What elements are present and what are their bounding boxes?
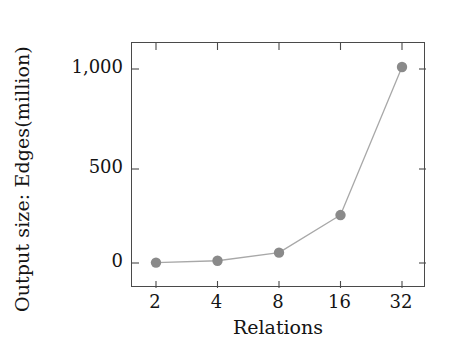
- plot-area: [131, 42, 425, 287]
- x-tick-label: 4: [187, 291, 247, 312]
- y-tick-label: 500: [89, 156, 123, 177]
- x-tick-label: 2: [125, 291, 185, 312]
- y-axis-title: Output size: Edges(million): [0, 0, 44, 358]
- data-point-marker: [151, 257, 161, 267]
- data-point-marker: [397, 62, 407, 72]
- x-tick-label: 16: [310, 291, 370, 312]
- data-line: [156, 67, 402, 263]
- x-axis-title: Relations: [131, 316, 425, 338]
- data-point-marker: [212, 256, 222, 266]
- data-point-marker: [335, 210, 345, 220]
- y-tick-label: 0: [112, 250, 123, 271]
- y-tick-label: 1,000: [71, 56, 123, 77]
- chart-figure: Output size: Edges(million) 05001,000 24…: [0, 0, 452, 358]
- x-tick-label: 32: [371, 291, 431, 312]
- plot-canvas: [132, 43, 426, 288]
- data-point-marker: [274, 247, 284, 257]
- data-markers: [151, 62, 407, 268]
- x-tick-label: 8: [248, 291, 308, 312]
